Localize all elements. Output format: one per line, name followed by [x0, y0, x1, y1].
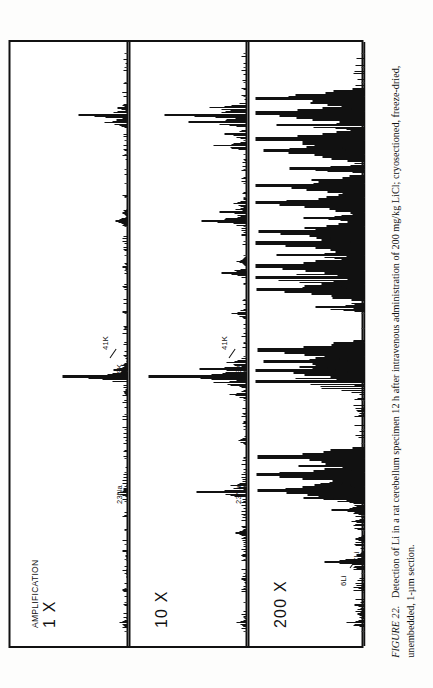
peak-shoulder	[245, 444, 247, 445]
noise-peak	[243, 300, 247, 301]
peak-shoulder	[125, 104, 127, 105]
noise-peak	[125, 596, 128, 597]
figure-area: AMPLIFICATION 1 X 23Na 39K 41K 10 X	[0, 31, 383, 652]
peak-shoulder	[352, 172, 364, 173]
peak-shoulder	[351, 108, 364, 110]
noise-peak	[125, 173, 127, 174]
peak-shoulder	[356, 505, 364, 506]
ion-label-41k: 41K	[220, 335, 229, 349]
amplification-label-200x: 200 X	[272, 580, 290, 628]
axis-tick	[243, 472, 246, 473]
axis-tick	[124, 501, 127, 502]
noise-peak	[124, 273, 127, 274]
axis-tick	[243, 573, 246, 574]
noise-peak	[125, 406, 128, 407]
noise-peak	[242, 556, 246, 557]
peak-shoulder	[245, 257, 247, 258]
noise-peak	[125, 583, 127, 584]
noise-peak	[355, 64, 364, 65]
noise-peak	[242, 498, 246, 499]
axis-tick	[243, 428, 246, 429]
spectrum-panel-1x: AMPLIFICATION 1 X 23Na 39K 41K	[11, 42, 129, 646]
axis-tick	[243, 544, 246, 545]
noise-peak	[242, 614, 246, 615]
axis-tick	[243, 298, 246, 299]
noise-peak	[124, 248, 128, 249]
axis-tick	[361, 443, 364, 444]
axis-tick	[243, 255, 246, 256]
noise-peak	[123, 483, 128, 484]
peak-shoulder	[345, 195, 364, 197]
noise-peak	[242, 233, 247, 234]
peak-shoulder	[244, 264, 246, 265]
peak-shoulder	[245, 582, 246, 583]
axis-tick	[124, 168, 127, 169]
noise-peak	[355, 528, 365, 529]
noise-peak	[124, 344, 127, 345]
peak-shoulder	[242, 130, 247, 131]
figure-frame: AMPLIFICATION 1 X 23Na 39K 41K 10 X	[9, 40, 364, 648]
noise-peak	[241, 336, 246, 337]
peak-shoulder	[362, 534, 364, 535]
noise-peak	[360, 578, 364, 579]
noise-peak	[124, 433, 127, 434]
noise-peak	[242, 514, 247, 515]
peak-shoulder	[241, 137, 247, 138]
spectrum-panel-10x: 10 X 23Na 39K 41K	[131, 42, 248, 646]
noise-peak	[358, 580, 365, 581]
axis-tick	[124, 472, 127, 473]
peak-shoulder	[362, 608, 364, 609]
axis-tick	[243, 631, 246, 632]
noise-peak	[355, 163, 364, 164]
noise-peak	[123, 83, 127, 84]
axis-tick	[124, 255, 127, 256]
noise-peak	[124, 136, 127, 137]
noise-peak	[244, 545, 247, 546]
noise-peak	[241, 525, 246, 526]
peak-shoulder	[351, 164, 364, 165]
noise-peak	[123, 437, 127, 438]
peak-shoulder	[361, 525, 364, 526]
noise-peak	[242, 591, 247, 592]
amplification-label-1x: AMPLIFICATION 1 X	[31, 559, 59, 627]
noise-peak	[357, 79, 364, 80]
noise-peak	[244, 421, 247, 422]
peak-shoulder	[352, 446, 364, 448]
peak-shoulder	[122, 126, 127, 127]
axis-tick	[243, 53, 246, 54]
noise-peak	[125, 351, 128, 352]
noise-peak	[123, 303, 127, 304]
noise-peak	[241, 505, 246, 506]
peak-shoulder	[125, 111, 128, 112]
noise-peak	[123, 550, 127, 551]
axis-tick	[124, 457, 127, 458]
noise-peak	[241, 56, 246, 57]
peak-shoulder	[244, 536, 247, 537]
noise-peak	[124, 512, 127, 513]
noise-peak	[244, 542, 247, 543]
peak-shoulder	[229, 380, 246, 381]
spectrum-panel-200x: 200 X 6Li 7Li 23Na 39K 41K	[250, 42, 366, 646]
noise-peak	[242, 527, 246, 528]
noise-peak	[124, 477, 128, 478]
peak-shoulder	[240, 268, 246, 269]
peak-shoulder	[361, 517, 364, 518]
figure-caption-area: FIGURE 22. Detection of Li in a rat cere…	[381, 0, 427, 688]
noise-peak	[243, 283, 246, 284]
peak-shoulder	[242, 358, 247, 359]
axis-tick	[243, 414, 246, 415]
peak-shoulder	[360, 626, 365, 627]
noise-peak	[123, 237, 128, 238]
noise-peak	[241, 519, 246, 520]
noise-peak	[360, 548, 364, 549]
scanned-page: AMPLIFICATION 1 X 23Na 39K 41K 10 X	[0, 0, 433, 688]
noise-peak	[244, 343, 247, 344]
spectrum-plot	[11, 42, 129, 646]
spectrum-plot	[131, 42, 248, 646]
noise-peak	[123, 540, 127, 541]
noise-peak	[242, 460, 246, 461]
peak-shoulder	[363, 601, 365, 602]
noise-peak	[123, 427, 127, 428]
figure-number: FIGURE 22.	[390, 606, 401, 658]
noise-peak	[353, 73, 364, 74]
